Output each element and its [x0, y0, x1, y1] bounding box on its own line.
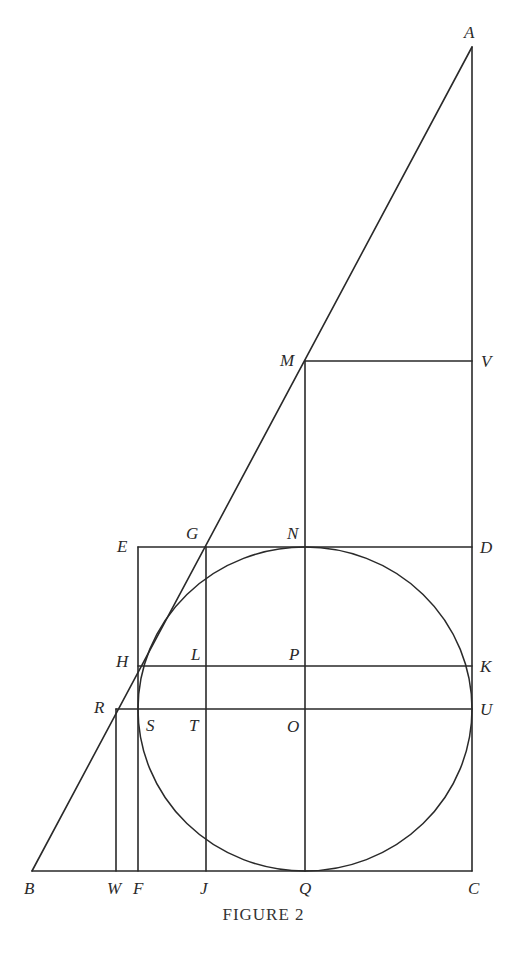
label-F: F: [133, 880, 143, 897]
label-D: D: [480, 539, 492, 556]
label-N: N: [287, 525, 298, 542]
label-W: W: [107, 880, 121, 897]
label-B: B: [24, 880, 34, 897]
label-R: R: [94, 699, 104, 716]
label-Q: Q: [299, 880, 311, 897]
label-H: H: [116, 653, 128, 670]
label-T: T: [189, 717, 198, 734]
figure-caption: FIGURE 2: [0, 905, 527, 925]
label-L: L: [191, 646, 200, 663]
label-O: O: [287, 718, 299, 735]
label-G: G: [186, 525, 198, 542]
segment-AB: [32, 47, 472, 871]
label-U: U: [480, 701, 492, 718]
geometry-figure: [0, 0, 527, 953]
label-A: A: [464, 24, 474, 41]
label-E: E: [117, 538, 127, 555]
label-S: S: [146, 717, 155, 734]
label-P: P: [289, 646, 299, 663]
label-C: C: [468, 880, 479, 897]
label-M: M: [280, 352, 294, 369]
label-K: K: [480, 658, 491, 675]
label-J: J: [200, 880, 208, 897]
label-V: V: [481, 353, 491, 370]
